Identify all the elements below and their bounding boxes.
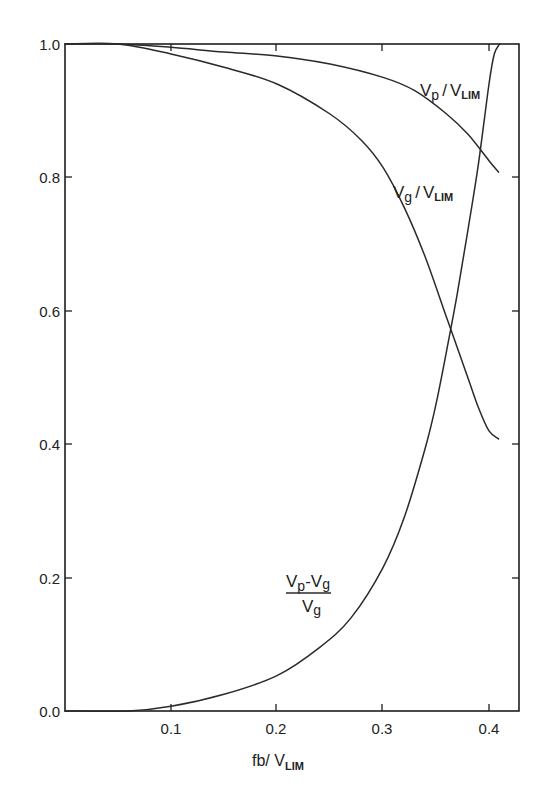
x-tick-label: 0.3 xyxy=(372,720,393,737)
label-slash: / xyxy=(415,183,420,202)
label-v: V xyxy=(420,81,432,100)
x-axis-title: fb/ VLIM xyxy=(252,752,304,772)
y-tick-labels: 1.0 0.8 0.6 0.4 0.2 0.0 xyxy=(39,36,60,720)
y-ticks xyxy=(65,177,519,578)
y-tick-label: 1.0 xyxy=(39,36,60,53)
vp-over-vlim-label: Vp/VLIM xyxy=(420,81,480,103)
y-tick-label: 0.2 xyxy=(39,570,60,587)
chart: 1.0 0.8 0.6 0.4 0.2 0.0 0.1 0.2 0.3 0.4 … xyxy=(0,0,545,807)
y-tick-label: 0.6 xyxy=(39,303,60,320)
label-v2: V xyxy=(450,81,462,100)
y-tick-label: 0.0 xyxy=(39,703,60,720)
label-v: V xyxy=(393,183,405,202)
label-v: V xyxy=(302,597,314,616)
x-tick-label: 0.1 xyxy=(161,720,182,737)
series-lines xyxy=(65,43,500,711)
x-tick-label: 0.4 xyxy=(479,720,500,737)
relative-velocity-difference-line xyxy=(65,44,500,711)
label-v: V xyxy=(286,572,298,591)
x-axis-title-sub: LIM xyxy=(285,760,304,772)
fraction-denominator: Vg xyxy=(302,597,321,618)
fraction-numerator: Vp-Vg xyxy=(286,572,330,594)
x-axis-title-main: fb/ V xyxy=(252,752,285,769)
label-sub: p xyxy=(431,87,439,103)
label-sub: g xyxy=(313,602,321,618)
label-sub2: g xyxy=(322,576,330,592)
label-sub2: LIM xyxy=(434,191,453,203)
x-tick-labels: 0.1 0.2 0.3 0.4 xyxy=(161,720,500,737)
x-tick-label: 0.2 xyxy=(266,720,287,737)
label-slash: / xyxy=(442,81,447,100)
y-tick-label: 0.4 xyxy=(39,436,60,453)
label-sub: p xyxy=(297,578,305,594)
plot-frame xyxy=(65,44,519,711)
label-v2: V xyxy=(311,572,323,591)
vg-over-vlim-label: Vg/VLIM xyxy=(393,183,453,205)
relative-difference-label: Vp-Vg Vg xyxy=(286,572,331,618)
vp-over-vlim-line xyxy=(65,44,499,172)
label-sub: g xyxy=(404,189,412,205)
label-sub2: LIM xyxy=(461,89,480,101)
label-v2: V xyxy=(423,183,435,202)
y-tick-label: 0.8 xyxy=(39,169,60,186)
